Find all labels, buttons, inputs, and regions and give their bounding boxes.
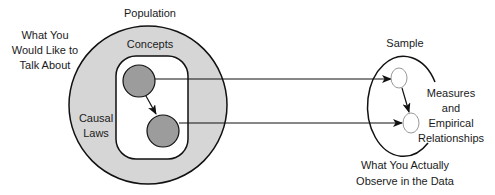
bottom-caption-line-2: Observe in the Data (356, 175, 455, 187)
measures-line-1: Measures (427, 87, 476, 99)
sample-label: Sample (386, 37, 423, 49)
left-caption-line-2: Would Like to (12, 44, 78, 56)
empirical-arrow (402, 88, 409, 112)
left-caption-line-1: What You (21, 29, 68, 41)
concept-node-1 (123, 65, 155, 97)
measures-line-3: Empirical (428, 117, 473, 129)
measure-node-2 (403, 113, 419, 133)
bottom-caption-line-1: What You Actually (361, 159, 450, 171)
population-sample-diagram: Population What You Would Like to Talk A… (0, 0, 495, 195)
concepts-label: Concepts (127, 38, 174, 50)
causal-laws-line-1: Causal (79, 112, 113, 124)
measures-line-4: Relationships (418, 132, 485, 144)
measures-line-2: and (442, 102, 460, 114)
causal-laws-line-2: Laws (83, 127, 109, 139)
left-caption-line-3: Talk About (20, 59, 71, 71)
population-label: Population (124, 7, 176, 19)
concept-node-2 (147, 115, 179, 147)
measure-node-1 (391, 68, 407, 88)
